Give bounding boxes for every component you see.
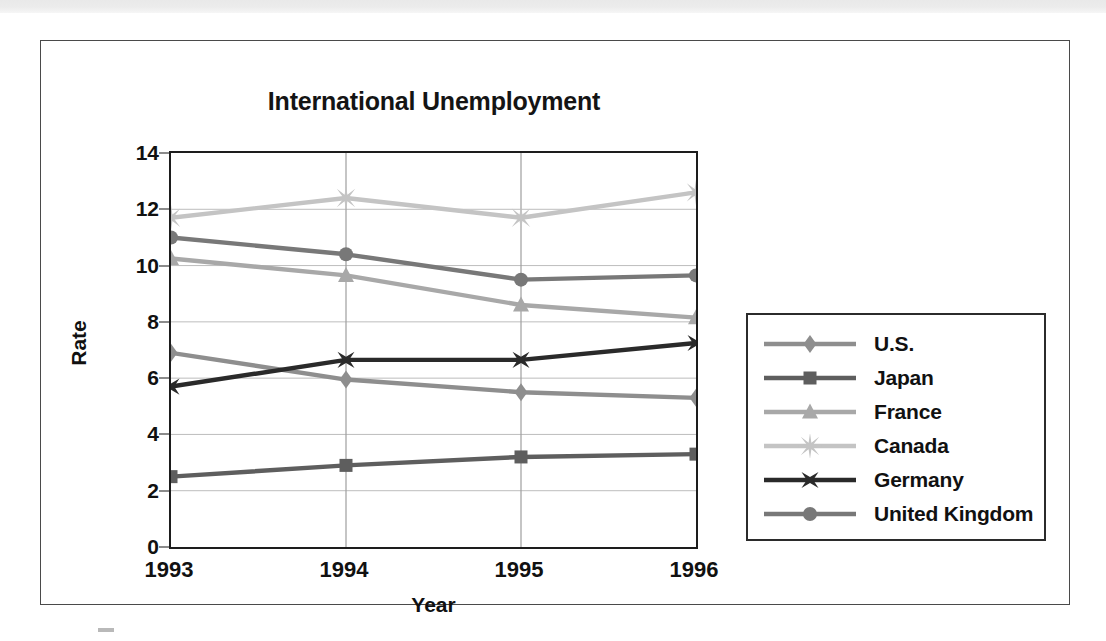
- legend-marker-star8-icon: [762, 434, 858, 458]
- x-tick-label: 1996: [646, 557, 742, 583]
- y-tick-mark: [159, 490, 169, 492]
- legend-item-label: Japan: [874, 366, 934, 390]
- legend-marker-triangle-icon: [762, 400, 858, 424]
- plot-area: [169, 151, 698, 549]
- y-tick-mark: [159, 433, 169, 435]
- legend-item-united-kingdom[interactable]: United Kingdom: [748, 497, 1044, 531]
- y-tick-label: 2: [115, 479, 159, 503]
- legend-item-canada[interactable]: Canada: [748, 429, 1044, 463]
- legend-marker-x-cross-icon: [762, 468, 858, 492]
- x-tick-label: 1994: [296, 557, 392, 583]
- x-axis-title: Year: [169, 593, 698, 617]
- legend-item-u-s[interactable]: U.S.: [748, 327, 1044, 361]
- x-tick-label: 1993: [121, 557, 217, 583]
- legend-item-germany[interactable]: Germany: [748, 463, 1044, 497]
- chart-title: International Unemployment: [169, 87, 699, 116]
- y-tick-label: 12: [115, 197, 159, 221]
- series-canada: [171, 179, 696, 230]
- y-tick-mark: [159, 546, 169, 548]
- legend-marker-diamond-icon: [762, 332, 858, 356]
- y-tick-label: 14: [115, 141, 159, 165]
- legend-item-label: Germany: [874, 468, 964, 492]
- y-tick-mark: [159, 321, 169, 323]
- scan-edge-band: [0, 0, 1106, 13]
- legend-marker-circle-icon: [762, 502, 858, 526]
- legend-item-label: France: [874, 400, 942, 424]
- legend-item-label: U.S.: [874, 332, 914, 356]
- chart-legend: U.S.JapanFranceCanadaGermanyUnited Kingd…: [746, 313, 1046, 541]
- y-tick-mark: [159, 377, 169, 379]
- series-japan: [171, 448, 696, 484]
- y-tick-label: 6: [115, 366, 159, 390]
- chart-series-canvas: [171, 153, 696, 547]
- legend-item-label: United Kingdom: [874, 502, 1033, 526]
- y-tick-label: 4: [115, 422, 159, 446]
- legend-marker-square-icon: [762, 366, 858, 390]
- series-united-kingdom: [171, 230, 696, 286]
- legend-item-label: Canada: [874, 434, 949, 458]
- x-axis-tick-labels: 1993199419951996: [169, 557, 698, 591]
- scan-margin-mark: [98, 628, 114, 632]
- y-axis-title: Rate: [67, 283, 91, 403]
- y-tick-mark: [159, 265, 169, 267]
- y-tick-label: 8: [115, 310, 159, 334]
- y-axis-tick-labels: 02468101214: [107, 151, 159, 549]
- y-tick-mark: [159, 152, 169, 154]
- legend-list: U.S.JapanFranceCanadaGermanyUnited Kingd…: [748, 327, 1044, 531]
- legend-item-japan[interactable]: Japan: [748, 361, 1044, 395]
- legend-item-france[interactable]: France: [748, 395, 1044, 429]
- figure-frame: International Unemployment Rate 02468101…: [40, 40, 1070, 605]
- y-tick-label: 10: [115, 254, 159, 278]
- y-tick-label: 0: [115, 535, 159, 559]
- series-france: [171, 250, 696, 324]
- x-tick-label: 1995: [471, 557, 567, 583]
- y-tick-mark: [159, 208, 169, 210]
